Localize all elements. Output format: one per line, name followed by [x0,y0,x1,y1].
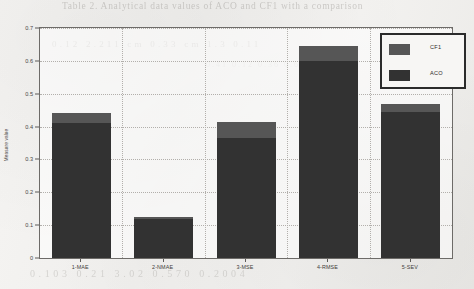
x-tick-mark [245,259,246,262]
x-axis: 1-MAE2-NMAE3-MSE4-RMSE5-SEV [39,259,453,285]
bar-segment-cf1 [299,46,358,61]
x-tick-label-3-mse: 3-MSE [237,264,254,270]
bar-segment-cf1 [52,113,111,123]
y-tick-label: 0.1 [25,222,33,228]
bar-segment-aco [299,61,358,258]
x-tick-mark [410,259,411,262]
legend-row-cf1: CF1 [382,37,464,61]
bar-4-rmse [299,28,358,258]
bar-1-mae [52,28,111,258]
bar-segment-aco [134,219,193,258]
bar-2-nmae [134,28,193,258]
x-tick-mark [327,259,328,262]
y-tick-label: 0.4 [25,124,33,130]
y-tick-label: 0 [30,255,33,261]
bar-segment-cf1 [381,104,440,112]
legend-row-aco: ACO [382,63,464,87]
legend-label-aco: ACO [430,70,443,76]
bar-segment-cf1 [134,217,193,219]
bar-segment-aco [52,123,111,258]
y-tick-label: 0.7 [25,25,33,31]
y-tick-label: 0.2 [25,189,33,195]
y-axis-title: Measure value [4,128,9,161]
chart-legend: CF1ACO [380,33,466,89]
x-tick-label-4-rmse: 4-RMSE [317,264,338,270]
legend-swatch-aco [389,70,410,81]
y-tick-label: 0.5 [25,91,33,97]
x-tick-mark [163,259,164,262]
bar-segment-cf1 [217,122,276,138]
legend-swatch-cf1 [389,44,410,55]
y-tick-label: 0.6 [25,58,33,64]
bar-segment-aco [217,138,276,258]
x-tick-label-2-nmae: 2-NMAE [152,264,173,270]
x-tick-mark [80,259,81,262]
x-tick-label-5-sev: 5-SEV [402,264,418,270]
legend-label-cf1: CF1 [430,44,441,50]
x-tick-label-1-mae: 1-MAE [72,264,89,270]
bar-3-mse [217,28,276,258]
y-tick-label: 0.3 [25,156,33,162]
bar-segment-aco [381,112,440,258]
